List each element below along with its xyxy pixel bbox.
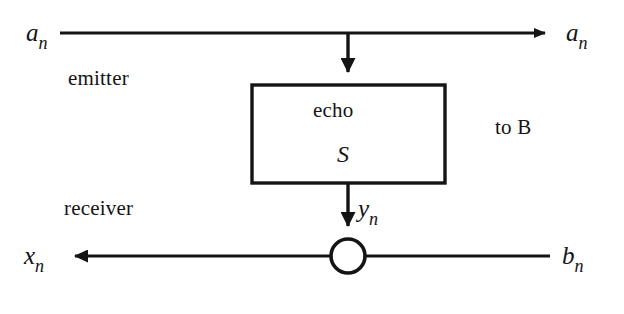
diagram-canvas bbox=[0, 0, 624, 314]
label-echo-block-title: echo bbox=[313, 100, 353, 121]
label-x-n-output: xn bbox=[24, 243, 44, 268]
label-receiver: receiver bbox=[64, 198, 133, 219]
summing-junction-circle bbox=[331, 239, 365, 273]
label-to-b: to B bbox=[495, 117, 531, 138]
label-a-n-output: an bbox=[566, 20, 588, 45]
echo-canceller-diagram: an an emitter receiver to B echo S yn xn… bbox=[0, 0, 624, 314]
label-y-n: yn bbox=[358, 196, 378, 221]
label-a-n-input: an bbox=[26, 20, 48, 45]
label-echo-block-symbol: S bbox=[337, 142, 349, 166]
label-b-n-input: bn bbox=[562, 243, 584, 268]
label-emitter: emitter bbox=[68, 68, 129, 89]
